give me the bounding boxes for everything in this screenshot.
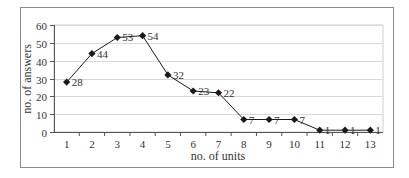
x-axis-title: no. of units xyxy=(191,149,246,163)
x-tick-label: 12 xyxy=(340,138,351,150)
x-tick-label: 11 xyxy=(314,138,325,150)
x-tick-label: 9 xyxy=(266,138,272,150)
y-tick-label: 10 xyxy=(36,109,48,121)
data-label: 32 xyxy=(173,69,184,81)
data-label: 7 xyxy=(249,114,255,126)
data-label: 22 xyxy=(224,87,235,99)
y-axis-title: no. of answers xyxy=(20,44,34,114)
y-tick-label: 60 xyxy=(36,20,48,32)
x-tick-label: 2 xyxy=(89,138,95,150)
x-tick-label: 13 xyxy=(365,138,377,150)
line-chart: 0102030405060 12345678910111213 28445354… xyxy=(0,0,409,178)
x-tick-label: 4 xyxy=(140,138,146,150)
data-label: 54 xyxy=(148,30,160,42)
y-tick-label: 20 xyxy=(36,91,48,103)
data-label: 1 xyxy=(325,124,331,136)
y-tick-label: 40 xyxy=(36,56,48,68)
data-label: 1 xyxy=(375,124,381,136)
data-label: 28 xyxy=(72,76,84,88)
data-label: 1 xyxy=(350,124,356,136)
data-label: 44 xyxy=(97,48,109,60)
x-tick-label: 5 xyxy=(165,138,171,150)
data-label: 53 xyxy=(122,31,133,43)
x-tick-label: 10 xyxy=(289,138,301,150)
data-label: 7 xyxy=(274,114,280,126)
y-tick-label: 30 xyxy=(36,74,48,86)
x-tick-label: 1 xyxy=(64,138,70,150)
data-label: 23 xyxy=(198,85,210,97)
y-tick-label: 50 xyxy=(36,38,48,50)
x-tick-label: 3 xyxy=(115,138,121,150)
data-label: 7 xyxy=(299,114,305,126)
y-tick-label: 0 xyxy=(42,127,48,139)
